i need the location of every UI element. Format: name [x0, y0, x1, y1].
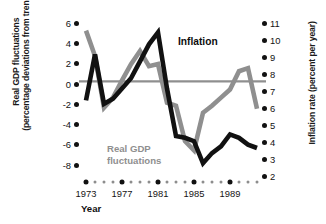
series-label-inflation: Inflation [178, 36, 218, 47]
series-line-real-gdp-fluctuations [86, 31, 257, 151]
series-label-real-gdp-line1: Real GDP [107, 143, 151, 154]
series-label-real-gdp: Real GDP fluctuations [107, 143, 161, 167]
series-label-real-gdp-line2: fluctuations [107, 155, 161, 167]
x-axis-name: Year [81, 203, 101, 214]
chart-figure: Real GDP fluctuations (percentage deviat… [0, 0, 326, 224]
plot-area [0, 0, 326, 224]
